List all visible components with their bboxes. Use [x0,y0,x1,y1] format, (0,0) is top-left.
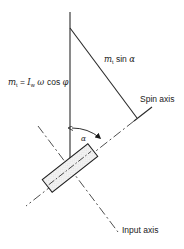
torque-symbol: m [8,77,16,87]
phi-symbol: φ [63,77,69,87]
gyroscope-diagram [0,0,184,249]
alpha-angle-label: α [81,135,86,143]
equals-sign: = [18,77,28,87]
alpha-symbol: α [129,54,135,64]
omega-symbol: ω [35,77,47,87]
torque-equation-label: mt = Iw ω cos φ [8,78,69,89]
sin-function: sin [114,54,130,64]
component-symbol: m [104,54,112,64]
sin-component-label: mt sin α [104,55,135,66]
input-axis-label: Input axis [122,226,158,235]
sin-component-line [70,28,137,118]
spin-axis-tick [134,107,152,121]
cos-function: cos [47,77,63,87]
spin-axis-label: Spin axis [140,95,175,104]
